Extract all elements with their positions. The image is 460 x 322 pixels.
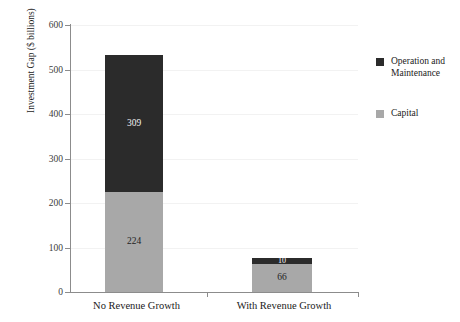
bar-segment-value: 309 <box>127 119 141 129</box>
x-axis-line <box>70 292 359 293</box>
y-axis-tick-label: 200 <box>30 198 63 208</box>
bar-segment-capital[interactable]: 224 <box>105 192 163 292</box>
y-axis-tick-label: 300 <box>30 154 63 164</box>
legend-item-capital[interactable]: Capital <box>376 108 459 120</box>
bar-segment-capital[interactable]: 66 <box>252 264 312 292</box>
y-axis-tickmark-0 <box>65 292 70 293</box>
bar-segment-operation-and-maintenance[interactable]: 309 <box>105 55 163 193</box>
bar-with-revenue-growth[interactable]: 10 66 <box>252 258 312 292</box>
legend-item-label: Capital <box>391 108 459 120</box>
y-axis-tick-label: 100 <box>30 243 63 253</box>
x-axis-label-with-revenue-growth: With Revenue Growth <box>210 300 358 311</box>
legend-swatch-icon <box>376 110 384 118</box>
y-axis-tickmark-200 <box>65 203 70 204</box>
x-axis-label-no-revenue-growth: No Revenue Growth <box>64 300 209 311</box>
stacked-bar-chart: 309 224 10 66 600 500 400 <box>0 0 460 322</box>
gridline-600 <box>70 25 358 26</box>
y-axis-line <box>70 24 71 293</box>
y-axis-tickmark-100 <box>65 248 70 249</box>
x-axis-tickmark-mid <box>207 292 208 297</box>
legend-swatch-icon <box>376 58 384 66</box>
legend-item-label: Operation and Maintenance <box>391 56 459 79</box>
bar-no-revenue-growth[interactable]: 309 224 <box>105 55 163 292</box>
y-axis-tickmark-500 <box>65 70 70 71</box>
legend-item-operation-and-maintenance[interactable]: Operation and Maintenance <box>376 56 459 79</box>
plot-area: 309 224 10 66 600 500 400 <box>70 25 358 292</box>
y-axis-title: Investment Gap ($ billions) <box>26 8 36 113</box>
y-axis-tickmark-300 <box>65 159 70 160</box>
y-axis-tick-label: 0 <box>30 287 63 297</box>
x-axis-tickmark-end <box>358 292 359 297</box>
bar-segment-value: 224 <box>127 237 141 247</box>
bar-segment-value: 66 <box>277 273 287 283</box>
y-axis-tickmark-400 <box>65 114 70 115</box>
y-axis-tickmark-600 <box>65 25 70 26</box>
